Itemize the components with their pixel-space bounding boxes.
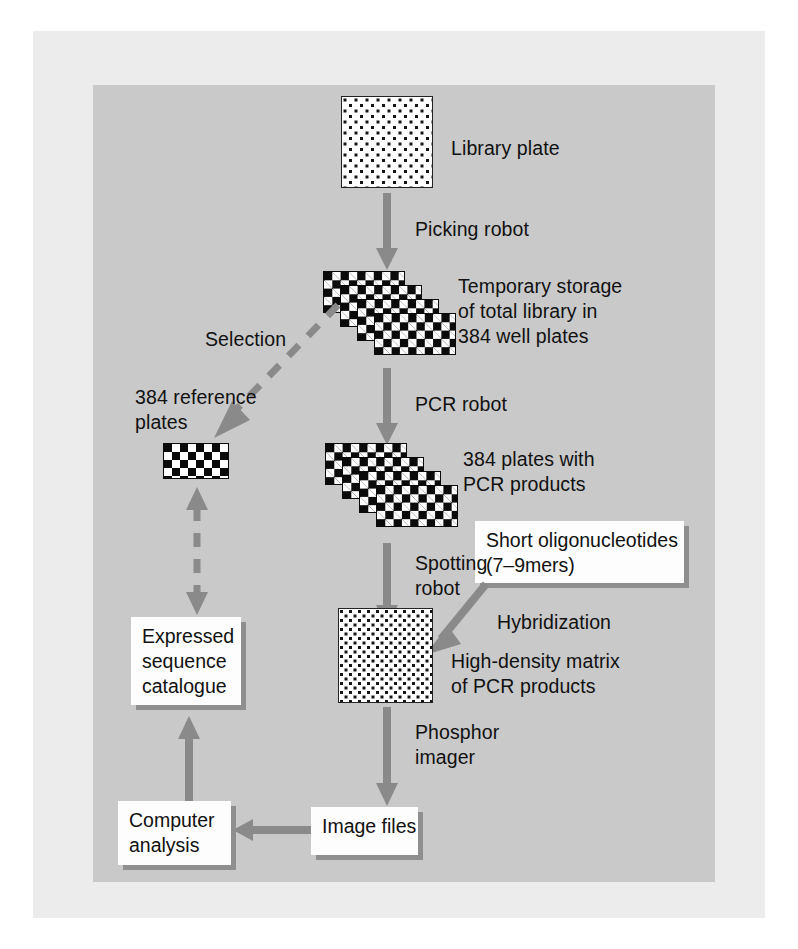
arrow-pcr-robot bbox=[374, 368, 400, 446]
arrow-catalogue-up bbox=[176, 715, 202, 811]
temporary-storage-label: Temporary storage of total library in 38… bbox=[458, 274, 622, 349]
arrow-hybridization bbox=[423, 579, 493, 659]
diagram-panel: Library plate Picking robot Temporary st… bbox=[93, 85, 715, 882]
phosphor-imager-label: Phosphor imager bbox=[415, 720, 499, 770]
figure-page: Library plate Picking robot Temporary st… bbox=[0, 0, 798, 949]
reference-plate-icon bbox=[163, 443, 229, 479]
expressed-sequence-catalogue-box: Expressed sequence catalogue bbox=[131, 617, 241, 705]
high-density-matrix-label: High-density matrix of PCR products bbox=[451, 649, 620, 699]
computer-analysis-box: Computer analysis bbox=[118, 801, 231, 865]
short-oligonucleotides-box: Short oligonucleotides (7–9mers) bbox=[475, 521, 684, 583]
pcr-plates-label: 384 plates with PCR products bbox=[463, 447, 595, 497]
picking-robot-label: Picking robot bbox=[415, 217, 529, 242]
pcr-plate-stack-icon bbox=[325, 443, 460, 535]
selection-label: Selection bbox=[205, 327, 286, 352]
well-plate-stack-icon bbox=[323, 271, 458, 361]
high-density-matrix-icon bbox=[338, 608, 433, 703]
library-plate-icon bbox=[341, 96, 433, 188]
pcr-robot-label: PCR robot bbox=[415, 392, 507, 417]
arrow-image-to-computer bbox=[233, 817, 311, 843]
reference-plates-label: 384 reference plates bbox=[135, 385, 257, 435]
library-plate-label: Library plate bbox=[451, 136, 560, 161]
hybridization-label: Hybridization bbox=[497, 610, 611, 635]
image-files-box: Image files bbox=[311, 807, 418, 855]
arrow-reference-catalogue-dashed bbox=[182, 485, 212, 617]
arrow-phosphor-imager bbox=[374, 707, 400, 807]
arrow-picking-robot bbox=[374, 193, 400, 271]
